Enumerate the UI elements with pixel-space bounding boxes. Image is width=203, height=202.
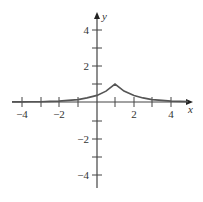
x-tick-label-neg2: −2	[53, 108, 65, 120]
y-tick-label-neg4: −4	[77, 169, 89, 181]
x-axis-label: x	[187, 103, 193, 115]
x-tick-label-2: 2	[131, 108, 137, 120]
y-tick-label-2: 2	[84, 60, 90, 72]
y-tick-label-neg2: −2	[77, 133, 89, 145]
y-axis-label: y	[101, 10, 107, 22]
x-tick-label-4: 4	[168, 108, 174, 120]
y-tick-label-4: 4	[84, 24, 90, 36]
chart: −4 −2 2 4 4 2 −2 −4 x y	[0, 0, 203, 202]
curve-line	[12, 84, 188, 102]
y-axis-arrow-icon	[94, 12, 100, 19]
x-tick-label-neg4: −4	[16, 108, 28, 120]
